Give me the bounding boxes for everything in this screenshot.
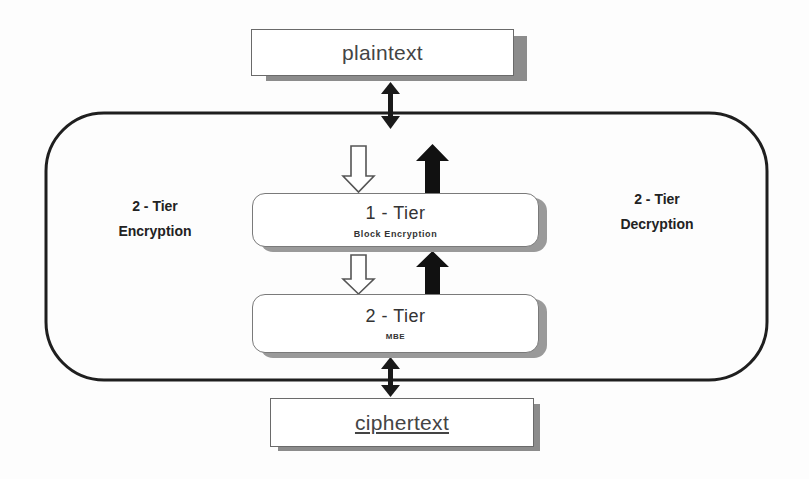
tier-1-box: 1 - Tier Block Encryption	[252, 193, 539, 247]
tier-2-title: 2 - Tier	[253, 306, 538, 327]
tier-2-subtitle: MBE	[253, 332, 538, 341]
plaintext-label: plaintext	[342, 41, 423, 65]
hollow-down-arrow-icon-2	[343, 255, 374, 294]
plaintext-box: plaintext	[251, 29, 514, 76]
encryption-label: 2 - Tier Encryption	[100, 194, 210, 244]
tier-2-box: 2 - Tier MBE	[252, 294, 539, 353]
solid-up-arrow-icon-2	[416, 251, 449, 294]
tier-1-title: 1 - Tier	[253, 203, 538, 224]
decryption-label-line2: Decryption	[592, 212, 722, 237]
decryption-label-line1: 2 - Tier	[592, 187, 722, 212]
decryption-label: 2 - Tier Decryption	[592, 187, 722, 237]
encryption-label-line2: Encryption	[100, 219, 210, 244]
solid-up-arrow-icon-1	[416, 144, 449, 193]
tier-1-subtitle: Block Encryption	[253, 229, 538, 239]
ciphertext-label: ciphertext	[355, 411, 449, 435]
double-arrow-icon-top	[381, 82, 400, 129]
encryption-label-line1: 2 - Tier	[100, 194, 210, 219]
hollow-down-arrow-icon-1	[343, 146, 374, 192]
double-arrow-icon-bottom	[381, 357, 400, 397]
ciphertext-box: ciphertext	[270, 398, 534, 447]
